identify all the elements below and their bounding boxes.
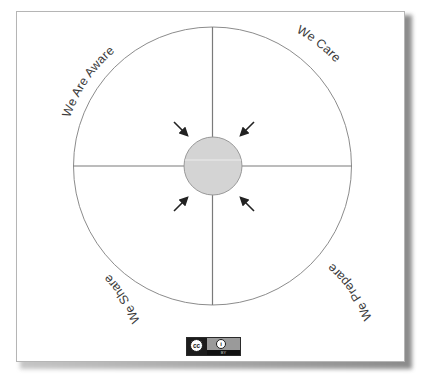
arrow-bottom-left-icon (174, 198, 187, 211)
by-label: BY (207, 350, 240, 355)
label-we-are-aware: We Are Aware (60, 43, 117, 119)
label-we-share: We Share (101, 272, 143, 326)
center-circle (184, 137, 242, 195)
creative-commons-icon: cc (190, 339, 203, 352)
arrow-top-left-icon (174, 122, 187, 135)
attribution-person-icon: i (216, 339, 226, 349)
label-we-prepare: We Prepare (325, 261, 375, 323)
cc-section: cc (187, 338, 207, 355)
arrow-top-right-icon (241, 122, 254, 135)
arrow-bottom-right-icon (241, 198, 254, 211)
label-we-care: We Care (295, 22, 344, 65)
quadrant-diagram: We Are Aware We Care We Prepare We Share (0, 0, 425, 376)
cc-by-license-badge[interactable]: cc i BY (186, 337, 241, 356)
